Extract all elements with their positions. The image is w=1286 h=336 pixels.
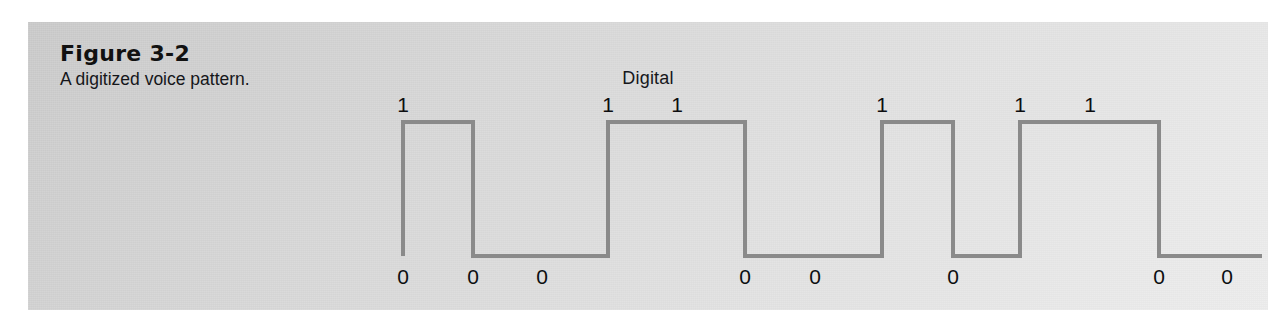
bit-label-1-11: 1 — [1084, 94, 1096, 115]
bit-label-0-13: 0 — [1221, 266, 1233, 287]
figure-illustration-panel: Figure 3-2 A digitized voice pattern. Di… — [28, 22, 1268, 310]
bit-label-0-1: 0 — [397, 266, 409, 287]
bit-label-1-5: 1 — [671, 94, 683, 115]
bit-label-0-9: 0 — [947, 266, 959, 287]
bit-label-0-3: 0 — [536, 266, 548, 287]
bit-label-0-6: 0 — [739, 266, 751, 287]
bit-label-1-4: 1 — [602, 94, 614, 115]
bit-label-0-2: 0 — [467, 266, 479, 287]
bit-label-1-10: 1 — [1014, 94, 1026, 115]
digital-waveform-plot — [28, 22, 1268, 310]
figure-root: Figure 3-2 A digitized voice pattern. Di… — [0, 0, 1286, 336]
bit-label-0-7: 0 — [809, 266, 821, 287]
bit-label-1-0: 1 — [397, 94, 409, 115]
bit-label-1-8: 1 — [876, 94, 888, 115]
waveform-area: 10001100101100 — [28, 22, 1268, 310]
square-wave-path — [403, 122, 1262, 256]
bit-label-0-12: 0 — [1153, 266, 1165, 287]
